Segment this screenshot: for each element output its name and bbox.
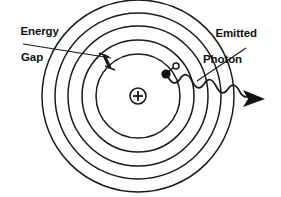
photon-arrowhead-icon	[243, 90, 265, 107]
atom-energy-gap-diagram: Energy Gap Emitted Photon	[0, 0, 281, 197]
energy-gap-marker	[99, 53, 115, 70]
electron-transition	[161, 63, 179, 79]
electron-ghost-dot-icon	[173, 63, 179, 69]
nucleus	[130, 88, 146, 104]
energy-gap-label-line1: Energy	[20, 25, 58, 37]
emitted-photon-label-line2: Photon	[203, 53, 257, 66]
energy-gap-label-line2: Gap	[8, 51, 59, 64]
emitted-photon-label: Emitted Photon	[203, 14, 257, 92]
energy-gap-label: Energy Gap	[8, 12, 59, 90]
electron-dot-icon	[161, 69, 170, 78]
emitted-photon-label-line1: Emitted	[215, 27, 256, 39]
